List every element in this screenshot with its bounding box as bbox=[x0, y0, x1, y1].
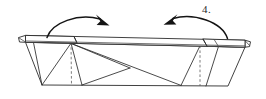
right-fold-arrow-head bbox=[164, 14, 178, 25]
left-fold-arrow-head bbox=[96, 15, 110, 26]
step-number-label: 4. bbox=[202, 3, 211, 15]
fold-diagram-svg bbox=[0, 0, 266, 99]
main-body-panel bbox=[26, 42, 246, 86]
right-fold-arrow-curve bbox=[173, 17, 228, 39]
left-dashed-crease bbox=[71, 42, 72, 84]
origami-step-figure: 4. bbox=[0, 0, 266, 99]
left-fold-arrow-curve bbox=[47, 17, 100, 37]
